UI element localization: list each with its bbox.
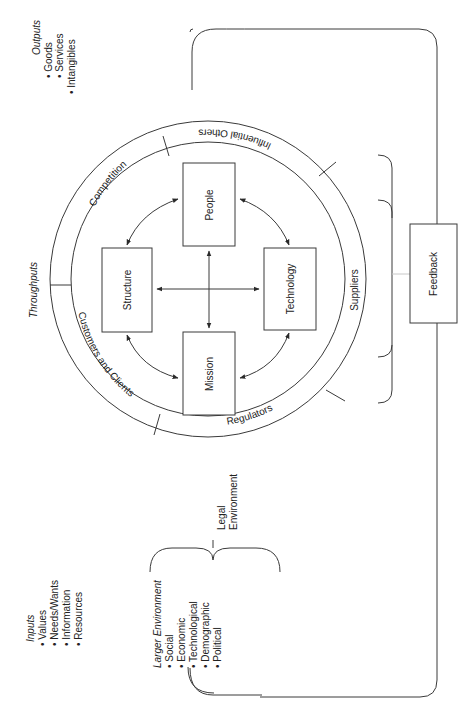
feedback-box: Feedback <box>410 224 457 323</box>
legal-environment-label: Legal Environment <box>216 474 239 530</box>
core-box-mission: Mission <box>183 332 235 415</box>
inputs-list: Inputs • Values • Needs/Wants • Informat… <box>25 580 84 646</box>
outputs-item: • Goods <box>43 42 54 78</box>
inputs-item: • Resources <box>73 592 84 646</box>
ring-label-competition: Competition <box>87 158 129 208</box>
core-label-technology: Technology <box>285 264 296 315</box>
organization-systems-diagram: Influential Others Competition Customers… <box>0 0 470 727</box>
core-box-structure: Structure <box>102 248 152 332</box>
core-label-people: People <box>204 189 215 221</box>
inputs-item: • Needs/Wants <box>49 580 60 646</box>
larger-environment-title: Larger Environment <box>152 579 163 668</box>
core-label-mission: Mission <box>204 357 215 391</box>
supplier-brackets <box>378 155 392 403</box>
svg-text:Legal: Legal <box>216 506 227 530</box>
larger-environment-list: Larger Environment • Social • Economic •… <box>152 579 223 668</box>
central-cross-arrows <box>157 251 259 328</box>
ring-label-influential-others: Influential Others <box>198 127 273 152</box>
outputs-list: Outputs • Goods • Services • Intangibles <box>31 20 77 94</box>
larger-environment-bracket <box>150 548 280 572</box>
larger-environment-item: • Economic <box>176 618 187 668</box>
inputs-item: • Values <box>37 610 48 646</box>
core-box-people: People <box>183 163 235 246</box>
larger-environment-item: • Demographic <box>200 602 211 668</box>
larger-environment-item: • Technological <box>188 601 199 668</box>
larger-environment-item: • Political <box>212 627 223 668</box>
outputs-item: • Intangibles <box>66 39 77 94</box>
inputs-title: Inputs <box>25 615 36 642</box>
feedback-loop-top-left-corner <box>192 29 252 90</box>
throughputs-label: Throughputs <box>28 262 39 318</box>
svg-text:Environment: Environment <box>228 474 239 530</box>
feedback-label: Feedback <box>428 251 439 296</box>
inputs-item: • Information <box>61 590 72 646</box>
core-box-technology: Technology <box>264 248 316 330</box>
ring-label-suppliers: Suppliers <box>349 269 360 311</box>
outputs-title: Outputs <box>31 20 42 55</box>
core-label-structure: Structure <box>122 269 133 310</box>
outputs-item: • Services <box>54 33 65 78</box>
larger-environment-item: • Social <box>164 634 175 668</box>
